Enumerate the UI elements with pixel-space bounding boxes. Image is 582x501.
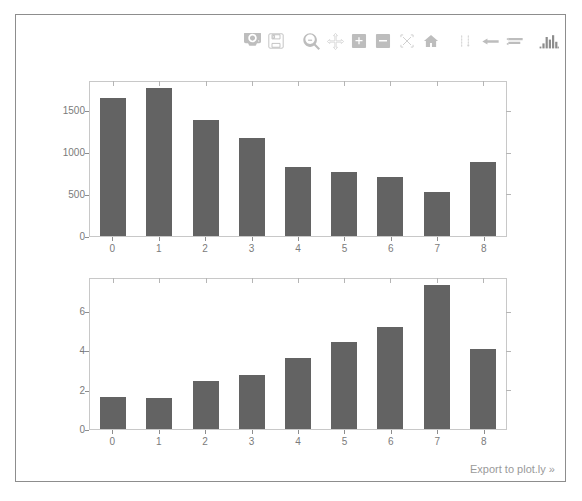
bar-series-top bbox=[90, 82, 506, 236]
x-tick-bottom-2: 2 bbox=[182, 430, 228, 451]
plot-area-bottom[interactable] bbox=[89, 278, 507, 430]
bar-cell bbox=[367, 279, 413, 429]
bar-top-8[interactable] bbox=[470, 162, 496, 236]
x-tick-top-1: 1 bbox=[135, 237, 181, 258]
y-tick-top-1500: 1500 bbox=[63, 105, 89, 117]
x-tick-label: 6 bbox=[388, 243, 394, 258]
modebar-group-logo bbox=[537, 29, 561, 53]
bar-series-bottom bbox=[90, 279, 506, 429]
bar-cell bbox=[229, 279, 275, 429]
y-tick-bottom-0: 0 bbox=[79, 424, 89, 436]
x-tick-bottom-6: 6 bbox=[368, 430, 414, 451]
x-axis-top: 0 1 2 3 4 5 6 7 8 bbox=[89, 237, 507, 258]
pan-move-icon[interactable] bbox=[323, 29, 347, 53]
x-tick-top-4: 4 bbox=[275, 237, 321, 258]
x-tick-label: 8 bbox=[481, 436, 487, 451]
x-tick-label: 6 bbox=[388, 436, 394, 451]
x-tick-label: 7 bbox=[435, 243, 441, 258]
bar-cell bbox=[460, 279, 506, 429]
spike-lines-icon[interactable] bbox=[454, 29, 478, 53]
bar-bottom-3[interactable] bbox=[239, 375, 265, 429]
bar-top-7[interactable] bbox=[424, 192, 450, 236]
bar-cell bbox=[414, 279, 460, 429]
x-tick-label: 4 bbox=[295, 436, 301, 451]
x-tick-label: 8 bbox=[481, 243, 487, 258]
bar-bottom-6[interactable] bbox=[377, 327, 403, 429]
bar-cell bbox=[275, 279, 321, 429]
bar-top-4[interactable] bbox=[285, 167, 311, 236]
bar-bottom-0[interactable] bbox=[100, 397, 126, 429]
bar-bottom-5[interactable] bbox=[331, 342, 357, 429]
x-tick-label: 2 bbox=[202, 436, 208, 451]
y-tick-top-1000: 1000 bbox=[63, 147, 89, 159]
y-right-ticks-bottom bbox=[506, 279, 511, 429]
zoom-out-minus-icon[interactable] bbox=[371, 29, 395, 53]
bar-bottom-4[interactable] bbox=[285, 358, 311, 429]
bar-bottom-7[interactable] bbox=[424, 285, 450, 429]
bar-cell bbox=[321, 279, 367, 429]
bar-top-3[interactable] bbox=[239, 138, 265, 236]
plotly-chart-card: 0 500 1000 1500 bbox=[15, 14, 566, 482]
zoom-magnifier-icon[interactable] bbox=[299, 29, 323, 53]
bar-bottom-2[interactable] bbox=[193, 381, 219, 429]
home-reset-axes-icon[interactable] bbox=[419, 29, 443, 53]
modebar-group-zoompan bbox=[299, 29, 443, 53]
y-tick-bottom-6: 6 bbox=[79, 306, 89, 318]
bar-top-0[interactable] bbox=[100, 98, 126, 236]
save-disk-icon[interactable] bbox=[264, 29, 288, 53]
bar-bottom-1[interactable] bbox=[146, 398, 172, 429]
bar-cell bbox=[367, 82, 413, 236]
x-tick-top-8: 8 bbox=[461, 237, 507, 258]
bar-top-6[interactable] bbox=[377, 177, 403, 236]
y-right-ticks-top bbox=[506, 82, 511, 236]
export-to-plotly-link[interactable]: Export to plot.ly » bbox=[470, 463, 555, 475]
modebar-group-download bbox=[240, 29, 288, 53]
bar-cell bbox=[182, 82, 228, 236]
zoom-in-plus-icon[interactable] bbox=[347, 29, 371, 53]
x-tick-label: 0 bbox=[109, 436, 115, 451]
bar-cell bbox=[414, 82, 460, 236]
camera-icon[interactable] bbox=[240, 29, 264, 53]
bar-cell bbox=[136, 279, 182, 429]
x-tick-bottom-0: 0 bbox=[89, 430, 135, 451]
bar-cell bbox=[90, 279, 136, 429]
x-tick-label: 1 bbox=[156, 243, 162, 258]
x-tick-label: 3 bbox=[249, 243, 255, 258]
x-tick-top-7: 7 bbox=[414, 237, 460, 258]
modebar-group-hover bbox=[454, 29, 526, 53]
x-tick-label: 5 bbox=[342, 243, 348, 258]
x-tick-top-2: 2 bbox=[182, 237, 228, 258]
bar-cell bbox=[182, 279, 228, 429]
plotly-logo-icon[interactable] bbox=[537, 29, 561, 53]
bar-cell bbox=[275, 82, 321, 236]
x-tick-label: 7 bbox=[435, 436, 441, 451]
bar-cell bbox=[90, 82, 136, 236]
bar-cell bbox=[460, 82, 506, 236]
hover-closest-icon[interactable] bbox=[478, 29, 502, 53]
bar-top-2[interactable] bbox=[193, 120, 219, 236]
bar-top-1[interactable] bbox=[146, 88, 172, 236]
x-tick-bottom-1: 1 bbox=[135, 430, 181, 451]
autoscale-icon[interactable] bbox=[395, 29, 419, 53]
y-axis-top: 0 500 1000 1500 bbox=[53, 81, 89, 237]
bar-cell bbox=[136, 82, 182, 236]
plot-area-top[interactable] bbox=[89, 81, 507, 237]
x-tick-label: 3 bbox=[249, 436, 255, 451]
x-tick-top-3: 3 bbox=[228, 237, 274, 258]
x-tick-label: 4 bbox=[295, 243, 301, 258]
subplot-top: 0 500 1000 1500 bbox=[53, 81, 543, 258]
bar-top-5[interactable] bbox=[331, 172, 357, 236]
y-tick-top-0: 0 bbox=[79, 231, 89, 243]
subplot-bottom: 0 2 4 6 bbox=[53, 278, 543, 451]
x-tick-bottom-5: 5 bbox=[321, 430, 367, 451]
x-axis-bottom: 0 1 2 3 4 5 6 7 8 bbox=[89, 430, 507, 451]
x-tick-bottom-4: 4 bbox=[275, 430, 321, 451]
x-tick-top-5: 5 bbox=[321, 237, 367, 258]
bar-cell bbox=[321, 82, 367, 236]
x-tick-bottom-3: 3 bbox=[228, 430, 274, 451]
y-tick-top-500: 500 bbox=[68, 189, 89, 201]
hover-compare-icon[interactable] bbox=[502, 29, 526, 53]
x-tick-label: 1 bbox=[156, 436, 162, 451]
bar-bottom-8[interactable] bbox=[470, 349, 496, 429]
y-axis-bottom: 0 2 4 6 bbox=[53, 278, 89, 430]
